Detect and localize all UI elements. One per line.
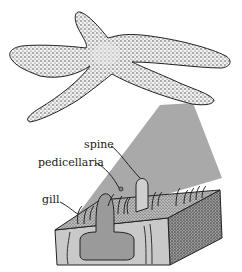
label-gill: gill	[42, 194, 60, 205]
starfish	[10, 12, 230, 122]
label-spine: spine	[84, 139, 114, 150]
spine	[136, 179, 148, 213]
body-wall-section	[55, 179, 222, 266]
starfish-diagram	[0, 0, 242, 272]
label-pedicellaria: pedicellaria	[38, 157, 104, 168]
